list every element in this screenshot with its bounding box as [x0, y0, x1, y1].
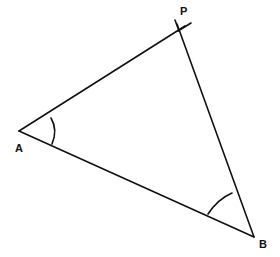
- vertex-label-b: B: [259, 238, 267, 250]
- construction-mark-p-2: [175, 20, 179, 31]
- vertex-label-a: A: [15, 142, 23, 154]
- side-ap: [19, 26, 185, 131]
- triangle-diagram: A P B: [0, 0, 280, 257]
- angle-arc-b: [208, 193, 232, 214]
- vertex-label-p: P: [180, 5, 187, 17]
- construction-mark-p-1: [178, 23, 191, 31]
- side-ab: [19, 131, 254, 237]
- angle-arc-a: [51, 118, 55, 144]
